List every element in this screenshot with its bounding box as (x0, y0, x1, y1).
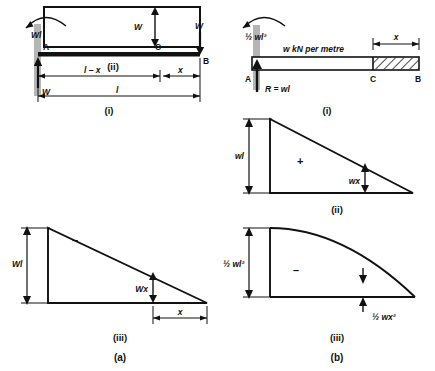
label-point-b: B (415, 74, 421, 84)
shear-rectangle (44, 7, 200, 47)
caption-a-ii: (ii) (107, 61, 119, 72)
mid-label: Wx (135, 284, 149, 294)
mid-label: ½ wx² (372, 312, 397, 322)
mid-dim-arrow-bottom-icon (149, 295, 157, 303)
x-dim-arrow-end-icon (412, 41, 419, 46)
caption-b-ii: (ii) (331, 204, 343, 215)
mid-dim-arrow-bottom-icon (361, 185, 369, 193)
peak-label: wl (235, 151, 245, 161)
moment-label: ½ wl² (245, 32, 267, 42)
udl-label: w kN per metre (283, 44, 344, 54)
peak-label: ½ wl² (223, 259, 245, 269)
group-label-a: (a) (114, 352, 126, 363)
panel-b-iii-moment: – ½ wl² ½ wx² (iii) (b) (215, 222, 435, 371)
dim-total-arrow-end-icon (193, 93, 200, 98)
panel-b-ii-shear: + wl wx (ii) (215, 113, 435, 221)
shear-sign: + (297, 155, 303, 167)
reaction-label: R = wl (265, 84, 290, 94)
panel-b-i-beam: ½ wl² A C B w kN per metre R = wl x (i) (215, 0, 435, 118)
shear-triangle (270, 119, 413, 193)
moment-parabola-curve (270, 228, 415, 297)
x-dim-label: x (177, 307, 184, 317)
dim-total-label: l (116, 85, 119, 95)
peak-dim-arrow-top-icon (23, 226, 31, 235)
panel-a-ii-shear: W (ii) (0, 0, 220, 80)
peak-dim-arrow-bottom-icon (245, 290, 253, 299)
x-dim-arrow-end-icon (200, 315, 207, 320)
shear-value-label: W (134, 22, 143, 32)
peak-dim-arrow-bottom-icon (245, 186, 253, 195)
panel-a-iii-moment: – Wl Wx x (iii) (a) (0, 222, 220, 371)
shear-dim-arrow-top-icon (151, 7, 159, 15)
mid-dim-arrow-up-icon (359, 297, 367, 306)
caption-a-iii: (iii) (113, 332, 127, 343)
mid-label: wx (349, 176, 362, 186)
caption-a-i: (i) (105, 105, 114, 116)
beam-hatched-segment (373, 58, 419, 70)
moment-sign: – (72, 234, 78, 246)
peak-dim-arrow-bottom-icon (23, 296, 31, 305)
peak-label: Wl (12, 259, 23, 269)
x-dim-label: x (393, 32, 400, 42)
x-dim-arrow-start-icon (373, 41, 380, 46)
moment-sign: – (293, 264, 299, 276)
caption-b-iii: (iii) (330, 332, 344, 343)
group-label-b: (b) (331, 352, 344, 363)
mid-dim-arrow-down-icon (359, 275, 367, 284)
shear-dim-arrow-bottom-icon (151, 39, 159, 47)
x-dim-arrow-start-icon (153, 315, 160, 320)
label-point-a: A (245, 74, 251, 84)
label-point-c: C (370, 74, 376, 84)
